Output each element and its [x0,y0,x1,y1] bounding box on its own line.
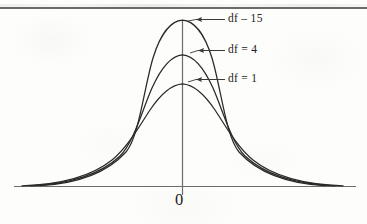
x-axis-origin-label: 0 [175,192,183,209]
callout-leader-df-15 [188,17,225,22]
callout-leader-df-4 [190,48,225,53]
curve-label-df-4: df = 4 [228,44,257,56]
figure-container: df – 15 df = 4 df = 1 0 [0,0,367,224]
curve-label-df-15: df – 15 [228,13,263,25]
curve-label-df-1: df = 1 [228,73,257,85]
density-curves-plot [0,0,367,224]
callout-leader-df-1 [188,77,225,82]
